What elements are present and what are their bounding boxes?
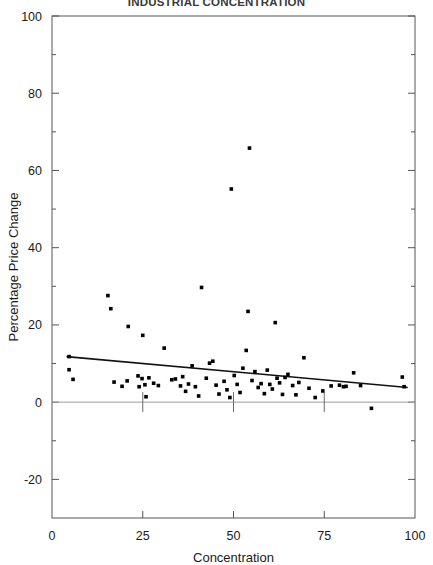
- data-point: [136, 374, 140, 378]
- data-point: [263, 392, 267, 396]
- data-point: [238, 391, 242, 395]
- data-point: [321, 389, 325, 393]
- x-axis-label: Concentration: [193, 550, 274, 565]
- data-point: [152, 381, 156, 385]
- x-tick-label: 25: [136, 529, 150, 543]
- y-tick-label: 80: [28, 87, 42, 101]
- data-point: [67, 355, 71, 359]
- data-point: [208, 361, 212, 365]
- data-point: [162, 346, 166, 350]
- x-tick-label: 50: [227, 529, 241, 543]
- zero-reference-layer: [52, 392, 415, 412]
- data-point: [278, 381, 282, 385]
- data-point: [230, 187, 234, 191]
- axis-labels-layer: -200204060801000255075100ConcentrationPe…: [6, 10, 425, 565]
- data-point: [273, 321, 277, 325]
- data-point: [370, 407, 374, 411]
- plot-frame: [52, 16, 415, 518]
- data-point: [170, 378, 174, 382]
- data-point: [329, 384, 333, 388]
- data-point: [174, 377, 178, 381]
- data-point: [214, 383, 218, 387]
- data-point: [157, 384, 161, 388]
- data-point: [307, 386, 311, 390]
- data-point: [241, 366, 245, 370]
- data-point: [71, 378, 75, 382]
- data-point: [228, 396, 232, 400]
- data-point: [275, 376, 279, 380]
- data-point: [217, 392, 221, 396]
- data-point: [144, 395, 148, 399]
- data-point: [235, 383, 239, 387]
- data-point: [352, 371, 356, 375]
- data-point: [250, 379, 254, 383]
- plot-area: -200204060801000255075100ConcentrationPe…: [0, 0, 433, 565]
- data-point: [225, 388, 229, 392]
- data-point: [313, 396, 317, 400]
- data-point: [222, 380, 226, 384]
- data-points-layer: [67, 146, 406, 410]
- data-point: [200, 286, 204, 290]
- data-point: [283, 376, 287, 380]
- data-point: [281, 393, 285, 397]
- data-point: [140, 377, 144, 381]
- data-point: [181, 375, 185, 379]
- x-tick-label: 75: [317, 529, 331, 543]
- y-tick-label: 100: [21, 10, 42, 24]
- data-point: [106, 294, 110, 298]
- data-point: [143, 383, 147, 387]
- data-point: [302, 356, 306, 360]
- data-point: [286, 373, 290, 377]
- data-point: [126, 325, 130, 329]
- y-tick-label: 40: [28, 241, 42, 255]
- data-point: [256, 386, 260, 390]
- data-point: [137, 385, 141, 389]
- chart-figure: INDUSTRIAL CONCENTRATION -20020406080100…: [0, 0, 433, 565]
- data-point: [248, 146, 252, 150]
- data-point: [265, 368, 269, 372]
- y-tick-label: 20: [28, 318, 42, 332]
- data-point: [259, 382, 263, 386]
- y-tick-label: 0: [35, 396, 42, 410]
- data-point: [268, 383, 272, 387]
- data-point: [67, 368, 71, 372]
- x-tick-label: 0: [49, 529, 56, 543]
- data-point: [271, 387, 275, 391]
- y-axis-label: Percentage Price Change: [6, 193, 21, 342]
- y-tick-label: 60: [28, 164, 42, 178]
- data-point: [253, 370, 257, 374]
- axes-layer: [52, 16, 415, 518]
- data-point: [179, 384, 183, 388]
- data-point: [109, 307, 113, 311]
- data-point: [338, 383, 342, 387]
- data-point: [402, 385, 406, 389]
- data-point: [147, 376, 151, 380]
- data-point: [232, 374, 236, 378]
- data-point: [244, 349, 248, 353]
- data-point: [125, 379, 129, 383]
- data-point: [344, 385, 348, 389]
- data-point: [297, 381, 301, 385]
- data-point: [359, 384, 363, 388]
- data-point: [211, 359, 215, 363]
- x-tick-label: 100: [405, 529, 426, 543]
- data-point: [204, 376, 208, 380]
- data-point: [246, 310, 250, 314]
- data-point: [112, 380, 116, 384]
- data-point: [197, 394, 201, 398]
- data-point: [194, 385, 198, 389]
- y-tick-label: -20: [24, 473, 42, 487]
- data-point: [184, 390, 188, 394]
- data-point: [190, 364, 194, 368]
- scatter-plot-svg: -200204060801000255075100ConcentrationPe…: [0, 0, 433, 565]
- data-point: [291, 384, 295, 388]
- data-point: [294, 393, 298, 397]
- data-point: [400, 375, 404, 379]
- data-point: [187, 382, 191, 386]
- data-point: [120, 385, 124, 389]
- data-point: [141, 334, 145, 338]
